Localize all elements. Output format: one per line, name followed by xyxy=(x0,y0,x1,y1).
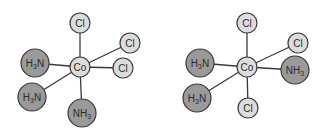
cl-ligand-label: Cl xyxy=(242,18,251,29)
cl-ligand: Cl xyxy=(237,13,257,33)
h3n-ligand: H3N xyxy=(183,84,211,112)
cl-ligand-label: Cl xyxy=(243,103,252,114)
atoms-layer: ClClClH3NH3NNH3CoClClNH3H3NH3NClCo xyxy=(18,13,309,127)
nh3-ligand: NH3 xyxy=(281,56,309,84)
cobalt-center-atom-label: Co xyxy=(241,62,254,73)
nh3-ligand: NH3 xyxy=(68,99,96,127)
h3n-ligand: H3N xyxy=(186,49,214,77)
h3n-ligand: H3N xyxy=(21,49,49,77)
complex-diagram: ClClClH3NH3NNH3CoClClNH3H3NH3NClCo xyxy=(0,0,323,133)
cl-ligand-label: Cl xyxy=(75,18,84,29)
cl-ligand: Cl xyxy=(288,33,308,53)
cl-ligand: Cl xyxy=(113,58,133,78)
cl-ligand-label: Cl xyxy=(125,38,134,49)
cl-ligand-label: Cl xyxy=(293,38,302,49)
cobalt-center-atom: Co xyxy=(237,57,257,77)
h3n-ligand: H3N xyxy=(18,83,46,111)
cl-ligand-label: Cl xyxy=(118,63,127,74)
cl-ligand: Cl xyxy=(120,33,140,53)
cobalt-center-atom: Co xyxy=(70,57,90,77)
cl-ligand: Cl xyxy=(70,13,90,33)
cobalt-center-atom-label: Co xyxy=(74,62,87,73)
cl-ligand: Cl xyxy=(238,98,258,118)
